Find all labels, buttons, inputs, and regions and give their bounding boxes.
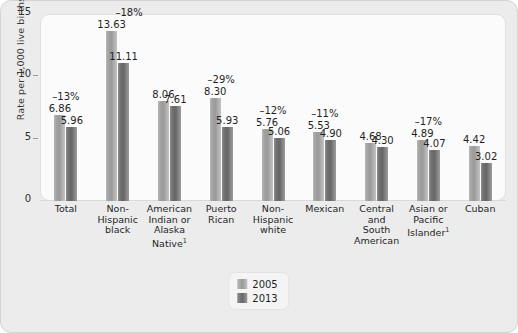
bar-value-label: 4.07 [423, 138, 445, 149]
bar-2013[interactable]: 5.93 [222, 127, 233, 201]
bar-2013[interactable]: 4.07 [429, 150, 440, 201]
bar-value-label: 5.96 [61, 115, 83, 126]
y-axis-tick-label: 15 [1, 6, 31, 17]
bar-2013[interactable]: 7.61 [170, 106, 181, 201]
bar-value-label: 3.02 [475, 151, 497, 162]
x-axis-category-label: Non-Hispanicblack [92, 204, 144, 249]
legend-label-2005: 2005 [252, 279, 277, 290]
bar-2005[interactable]: 5.76 [262, 129, 273, 201]
bar-2013[interactable]: 4.30 [377, 147, 388, 201]
bar-value-label: 8.30 [204, 86, 226, 97]
bar-value-label: 5.06 [268, 126, 290, 137]
bar-value-label: 4.42 [463, 134, 485, 145]
bar-2013[interactable]: 5.96 [66, 127, 77, 201]
x-axis-category-labels: TotalNon-HispanicblackAmericanIndian orA… [40, 204, 506, 249]
x-axis-category-label: PuertoRican [195, 204, 247, 249]
bar-2013[interactable]: 4.90 [325, 140, 336, 201]
bar-group: 5.765.06–12% [247, 14, 299, 201]
bar-group: 5.534.90–11% [299, 14, 351, 201]
y-axis-tick-label: 5 [1, 131, 31, 142]
bar-group: 8.305.93–29% [195, 14, 247, 201]
bar-2013[interactable]: 11.11 [118, 63, 129, 202]
bar-group: 8.067.61 [144, 14, 196, 201]
y-axis-tick-mark [33, 138, 38, 139]
legend-item-2005[interactable]: 2005 [237, 277, 277, 291]
y-axis-tick-label: 10 [1, 68, 31, 79]
legend-label-2013: 2013 [252, 293, 277, 304]
percent-change-label: –18% [115, 7, 142, 18]
bar-value-label: 11.11 [109, 51, 138, 62]
y-axis-title: Rate per 1,000 live births [15, 0, 26, 129]
chart-figure: Rate per 1,000 live births 051015 6.865.… [0, 0, 518, 333]
legend-swatch-2005-icon [237, 279, 247, 289]
bar-2013[interactable]: 3.02 [481, 163, 492, 201]
bar-2005[interactable]: 4.68 [365, 143, 376, 201]
bar-2005[interactable]: 6.86 [54, 115, 65, 201]
bar-2005[interactable]: 8.30 [210, 98, 221, 201]
percent-change-label: –29% [208, 74, 235, 85]
bar-value-label: 6.86 [49, 103, 71, 114]
x-axis-category-label: Mexican [299, 204, 351, 249]
bar-value-label: 4.30 [371, 135, 393, 146]
x-axis-category-label: Total [40, 204, 92, 249]
bar-groups: 6.865.96–13%13.6311.11–18%8.067.618.305.… [40, 14, 506, 201]
x-axis-category-label: Non-Hispanicwhite [247, 204, 299, 249]
y-axis-tick-label: 0 [1, 193, 31, 204]
bar-value-label: 13.63 [97, 19, 126, 30]
bar-2005[interactable]: 5.53 [313, 132, 324, 201]
bar-group: 6.865.96–13% [40, 14, 92, 201]
bar-value-label: 4.90 [320, 128, 342, 139]
legend-swatch-2013-icon [237, 293, 247, 303]
legend-item-2013[interactable]: 2013 [237, 291, 277, 305]
percent-change-label: –12% [259, 105, 286, 116]
chart-legend: 2005 2013 [228, 272, 289, 310]
bar-value-label: 7.61 [164, 94, 186, 105]
percent-change-label: –17% [415, 116, 442, 127]
bar-value-label: 5.93 [216, 115, 238, 126]
percent-change-label: –11% [311, 108, 338, 119]
x-axis-category-label: Asian orPacificIslander1 [402, 204, 454, 249]
bar-group: 4.684.30 [351, 14, 403, 201]
x-axis-category-label: CentralandSouthAmerican [351, 204, 403, 249]
x-axis-category-label: Cuban [454, 204, 506, 249]
percent-change-label: –13% [52, 91, 79, 102]
bar-group: 4.423.02 [454, 14, 506, 201]
bar-2013[interactable]: 5.06 [274, 138, 285, 201]
bar-2005[interactable]: 8.06 [158, 101, 169, 201]
bar-group: 4.894.07–17% [402, 14, 454, 201]
x-axis-category-label: AmericanIndian orAlaskaNative1 [144, 204, 196, 249]
bar-group: 13.6311.11–18% [92, 14, 144, 201]
y-axis-tick-mark [33, 75, 38, 76]
